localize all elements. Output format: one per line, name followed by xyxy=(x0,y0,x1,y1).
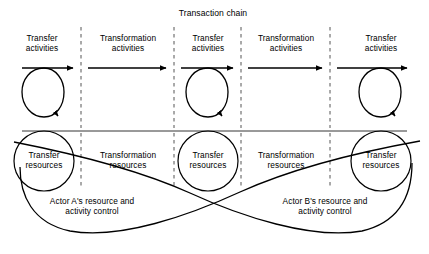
activity-loop-1 xyxy=(22,68,64,117)
actor-a-control-label: Actor A's resource and activity control xyxy=(22,196,162,217)
actor-b-control-label: Actor B's resource and activity control xyxy=(255,196,395,217)
activity-loops xyxy=(22,68,401,117)
resources-label-transfer-1: Transfer resources xyxy=(8,150,80,170)
transaction-chain-diagram: Transaction chain Transfer activities Tr… xyxy=(0,0,429,254)
activity-loop-3 xyxy=(359,68,401,117)
activity-loop-2 xyxy=(186,68,228,117)
activities-label-transfer-1: Transfer activities xyxy=(4,33,80,53)
activities-label-transfer-3: Transfer activities xyxy=(346,33,416,53)
activities-label-transfer-2: Transfer activities xyxy=(176,33,240,53)
resources-label-transfer-3: Transfer resources xyxy=(346,150,416,170)
resources-label-transformation-2: Transformation resources xyxy=(244,150,328,170)
activities-label-transformation-1: Transformation activities xyxy=(84,33,172,53)
resources-label-transfer-2: Transfer resources xyxy=(176,150,240,170)
resources-label-transformation-1: Transformation resources xyxy=(84,150,172,170)
diagram-title: Transaction chain xyxy=(143,8,283,18)
activities-label-transformation-2: Transformation activities xyxy=(244,33,328,53)
